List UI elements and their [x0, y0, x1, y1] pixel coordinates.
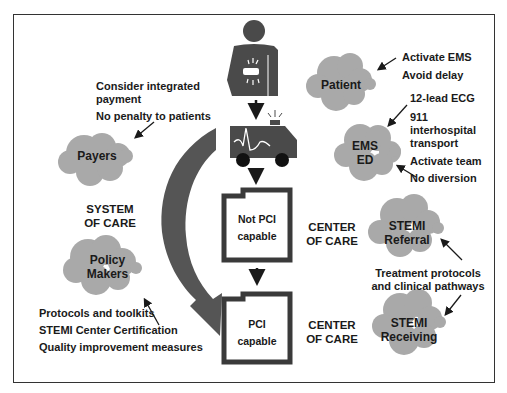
note-line: Treatment protocols — [366, 267, 490, 280]
person-chest-pain-icon — [227, 20, 278, 96]
center-of-care-label-1: CENTER OF CARE — [302, 220, 362, 248]
note-line: interhospital — [410, 124, 482, 137]
label-line: STEMI — [376, 316, 442, 330]
center-of-care-label-2: CENTER OF CARE — [302, 318, 362, 346]
stemi-referral-label: STEMI Referral — [376, 219, 438, 247]
note-line: STEMI Center Certification — [39, 322, 203, 339]
label-line: capable — [226, 333, 288, 350]
note-line: No diversion — [410, 172, 482, 185]
label-line: Referral — [376, 233, 438, 247]
pci-label: PCI capable — [226, 316, 288, 350]
stemi-note: Treatment protocols and clinical pathway… — [366, 267, 490, 293]
ambulance-ecg-icon — [230, 110, 297, 167]
label-line: OF CARE — [302, 234, 362, 248]
patient-label: Patient — [310, 78, 372, 92]
note-line: 12-lead ECG — [410, 92, 482, 105]
ems-ed-label: EMS ED — [340, 139, 390, 167]
label-line: EMS — [340, 139, 390, 153]
label-line: OF CARE — [302, 332, 362, 346]
label-line: SYSTEM — [70, 202, 150, 216]
note-line: Activate EMS — [402, 48, 472, 66]
label-line: OF CARE — [70, 216, 150, 230]
label-line: ED — [340, 153, 390, 167]
policy-makers-label: Policy Makers — [70, 253, 145, 281]
payers-label: Payers — [62, 149, 132, 163]
label-line: capable — [226, 228, 288, 245]
policy-note: Protocols and toolkits STEMI Center Cert… — [39, 305, 203, 356]
note-line: transport — [410, 137, 482, 150]
label-line: CENTER — [302, 318, 362, 332]
note-line: Avoid delay — [402, 66, 472, 84]
note-line: and clinical pathways — [366, 280, 490, 293]
patient-note: Activate EMS Avoid delay — [402, 48, 472, 84]
label-line: Not PCI — [226, 211, 288, 228]
not-pci-label: Not PCI capable — [226, 211, 288, 245]
note-line: Quality improvement measures — [39, 339, 203, 356]
stemi-receiving-label: STEMI Receiving — [376, 316, 442, 344]
note-line: Protocols and toolkits — [39, 305, 203, 322]
payers-note: Consider integrated payment No penalty t… — [96, 80, 211, 123]
label-line: PCI — [226, 316, 288, 333]
ems-note: 12-lead ECG 911 interhospital transport … — [410, 92, 482, 185]
label-line: Policy — [70, 253, 145, 267]
note-line: No penalty to patients — [96, 110, 211, 123]
note-line: 911 — [410, 111, 482, 124]
label-line: CENTER — [302, 220, 362, 234]
note-line: Activate team — [410, 155, 482, 168]
note-line: Consider integrated — [96, 80, 211, 93]
note-line: payment — [96, 93, 211, 106]
label-line: STEMI — [376, 219, 438, 233]
system-of-care-label: SYSTEM OF CARE — [70, 202, 150, 230]
label-line: Makers — [70, 267, 145, 281]
label-line: Receiving — [376, 330, 442, 344]
